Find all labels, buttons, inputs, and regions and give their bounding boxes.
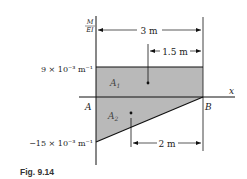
y-axis-label-numerator: M [86,18,94,26]
upper-value-label: 9 × 10⁻³ m⁻¹ [41,65,93,74]
x-axis-label: x [229,86,234,96]
lower-value-label: −15 × 10⁻³ m⁻¹ [29,139,93,148]
point-a-label: A [84,102,92,112]
point-b-label: B [204,102,212,112]
dimension-1-5m-label: 1.5 m [162,47,188,57]
y-axis-label-denominator: EI [85,26,94,34]
centroid-2-dot [130,112,133,115]
dimension-3m-label: 3 m [140,26,158,36]
moment-area-diagram: 3 m 1.5 m 2 m A1 A2 M EI x A B 9 × 10⁻³ … [0,0,247,179]
dimension-2m-label: 2 m [158,139,176,149]
centroid-1-dot [147,82,150,85]
figure-caption: Fig. 9.14 [20,167,54,177]
